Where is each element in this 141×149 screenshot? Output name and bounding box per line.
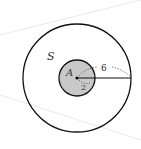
background-line-top xyxy=(0,0,141,35)
center-point xyxy=(75,76,78,79)
outer-label: S xyxy=(47,50,55,63)
center-label: A xyxy=(65,67,73,78)
inner-radius-label: 2 xyxy=(81,83,86,92)
outer-radius-dim-right xyxy=(112,67,131,77)
background-line-bottom xyxy=(0,95,141,140)
outer-radius-label: 6 xyxy=(101,63,107,73)
concentric-circles-diagram: S A 6 2 xyxy=(0,0,141,149)
